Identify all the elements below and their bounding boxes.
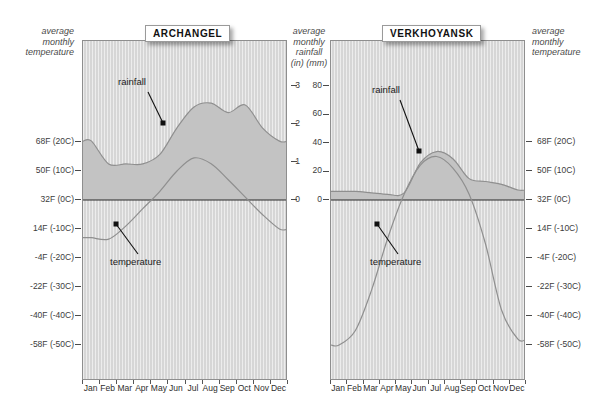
archangel-plot — [83, 41, 287, 380]
verkhoyansk-rainfall-callout-label: rainfall — [372, 84, 400, 95]
right-temp-tick: -58F (-50C) — [537, 340, 599, 349]
right-temp-tick: -40F (-40C) — [537, 311, 599, 320]
right-temp-tick-mark — [526, 170, 532, 171]
left-axis-title: average monthly temperature — [18, 26, 74, 58]
rain-mm-tick: 60 — [306, 109, 322, 118]
left-temp-tick: 68F (20C) — [14, 137, 74, 146]
left-temp-tick: -58F (-50C) — [14, 340, 74, 349]
left-temp-tick-mark — [75, 257, 81, 258]
rain-inch-tick-mark — [291, 161, 297, 162]
right-temp-tick-mark — [526, 286, 532, 287]
rain-mm-tick-mark — [323, 114, 329, 115]
left-temp-tick-mark — [75, 199, 81, 200]
right-temp-tick-mark — [526, 141, 532, 142]
left-temp-tick-mark — [75, 228, 81, 229]
rain-mm-tick: 40 — [306, 138, 322, 147]
panel-title-archangel: ARCHANGEL — [145, 25, 230, 42]
month-label-dec: Dec — [507, 383, 527, 393]
left-temp-tick-mark — [75, 315, 81, 316]
left-temp-tick-mark — [75, 170, 81, 171]
rain-mm-tick-mark — [323, 171, 329, 172]
right-temp-tick: 50F (10C) — [537, 166, 599, 175]
chart-panel-archangel — [82, 40, 287, 380]
right-temp-tick: -22F (-30C) — [537, 282, 599, 291]
right-temp-tick-mark — [526, 228, 532, 229]
right-temp-tick-mark — [526, 199, 532, 200]
left-temp-tick: 50F (10C) — [14, 166, 74, 175]
rain-mm-tick: 80 — [306, 81, 322, 90]
right-temp-tick: 32F (0C) — [537, 195, 599, 204]
right-temp-tick-mark — [526, 257, 532, 258]
left-temp-tick: -4F (-20C) — [14, 253, 74, 262]
left-temp-tick-mark — [75, 286, 81, 287]
rain-inch-tick-mark — [291, 123, 297, 124]
left-temp-tick: 32F (0C) — [14, 195, 74, 204]
right-temp-tick-mark — [526, 344, 532, 345]
month-tick — [509, 380, 510, 384]
rain-mm-tick-mark — [323, 199, 329, 200]
month-tick — [525, 380, 526, 384]
climate-figure: average monthly temperature average mont… — [0, 0, 601, 416]
rain-mm-tick: 0 — [306, 195, 322, 204]
right-axis-title: average monthly temperature — [532, 26, 594, 58]
left-temp-tick-mark — [75, 141, 81, 142]
right-temp-tick-mark — [526, 315, 532, 316]
verkhoyansk-plot — [331, 41, 525, 380]
rain-mm-tick-mark — [323, 142, 329, 143]
archangel-rainfall-callout-label: rainfall — [118, 76, 146, 87]
rain-inch-tick-mark — [291, 85, 297, 86]
rain-mm-tick-mark — [323, 85, 329, 86]
month-label-wrap: Dec — [0, 383, 601, 399]
right-temp-tick: 68F (20C) — [537, 137, 599, 146]
left-temp-tick: -22F (-30C) — [14, 282, 74, 291]
rain-inch-tick-mark — [291, 199, 297, 200]
panel-title-verkhoyansk: VERKHOYANSK — [382, 25, 481, 42]
right-temp-tick: -4F (-20C) — [537, 253, 599, 262]
verkhoyansk-temperature-callout-label: temperature — [370, 256, 421, 267]
archangel-temperature-callout-label: temperature — [110, 256, 161, 267]
left-temp-tick-mark — [75, 344, 81, 345]
left-temp-tick: 14F (-10C) — [14, 224, 74, 233]
right-temp-tick: 14F (-10C) — [537, 224, 599, 233]
left-temp-tick: -40F (-40C) — [14, 311, 74, 320]
rain-mm-tick: 20 — [306, 166, 322, 175]
center-axis-title: average monthly rainfall (in) (mm) — [286, 26, 332, 68]
chart-panel-verkhoyansk — [330, 40, 525, 380]
